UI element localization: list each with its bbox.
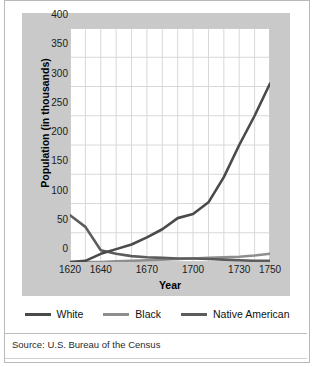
y-tick-label: 100 [28, 186, 68, 196]
y-axis-ticks: 400350300250200150100500 [24, 0, 68, 283]
x-tick-label: 1670 [136, 264, 158, 276]
chart-legend: WhiteBlackNative American [5, 300, 309, 328]
x-tick-label: 1640 [90, 264, 112, 276]
y-tick-label: 250 [28, 98, 68, 108]
y-tick-label: 0 [28, 244, 68, 254]
source-divider [5, 333, 307, 334]
legend-swatch-icon [181, 313, 207, 316]
legend-label: White [57, 308, 84, 320]
y-tick-label: 400 [28, 10, 68, 20]
y-tick-label: 200 [28, 127, 68, 137]
legend-swatch-icon [25, 313, 51, 316]
legend-item[interactable]: Black [103, 308, 161, 320]
plot-svg [70, 28, 270, 262]
y-tick-label: 300 [28, 69, 68, 79]
x-axis-ticks: 162016401670170017301750 [70, 264, 276, 278]
legend-label: Native American [213, 308, 289, 320]
plot-area [70, 28, 270, 262]
legend-item[interactable]: Native American [181, 308, 289, 320]
y-tick-label: 150 [28, 156, 68, 166]
chart-figure: Population (in thousands) 40035030025020… [0, 0, 312, 367]
legend-swatch-icon [103, 313, 129, 316]
y-tick-label: 50 [28, 215, 68, 225]
bottom-divider [5, 358, 307, 359]
source-note: Source: U.S. Bureau of the Census [12, 339, 160, 350]
legend-label: Black [135, 308, 161, 320]
x-tick-label: 1730 [228, 264, 250, 276]
legend-item[interactable]: White [25, 308, 84, 320]
x-tick-label: 1700 [182, 264, 204, 276]
x-tick-label: 1620 [59, 264, 81, 276]
y-tick-label: 350 [28, 39, 68, 49]
x-tick-label: 1750 [259, 264, 281, 276]
x-axis-title: Year [70, 279, 270, 291]
